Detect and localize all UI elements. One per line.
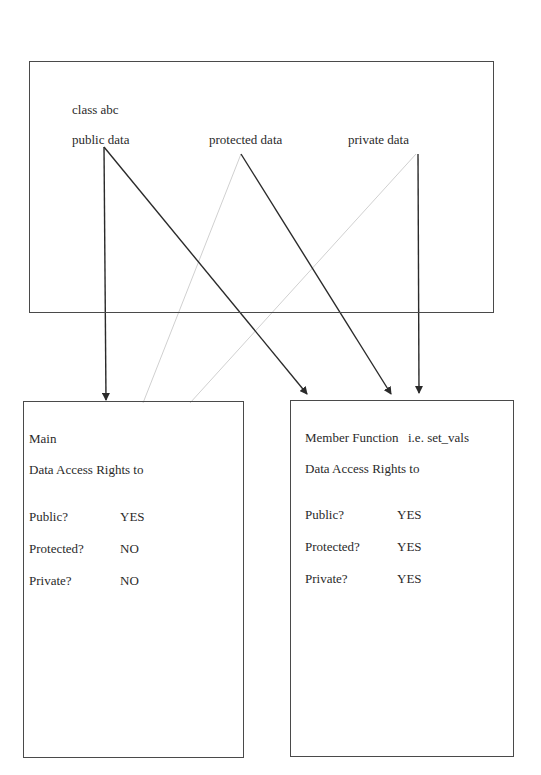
protected-data-label: protected data [209, 133, 282, 146]
private-data-label: private data [348, 133, 409, 146]
member-example: i.e. set_vals [408, 431, 469, 444]
main-row-private-value: NO [120, 574, 139, 587]
member-row-protected-label: Protected? [305, 540, 360, 553]
member-row-private-label: Private? [305, 572, 348, 585]
class-title: class abc [72, 103, 119, 116]
member-row-public-value: YES [397, 508, 422, 521]
main-row-protected-label: Protected? [29, 542, 84, 555]
main-row-public-label: Public? [29, 510, 68, 523]
main-row-private-label: Private? [29, 574, 72, 587]
public-data-label: public data [72, 133, 129, 146]
class-box [29, 61, 494, 313]
member-title: Member Function [305, 431, 399, 444]
main-title: Main [29, 432, 56, 445]
member-row-private-value: YES [397, 572, 422, 585]
member-row-public-label: Public? [305, 508, 344, 521]
main-subtitle: Data Access Rights to [29, 463, 143, 476]
member-row-protected-value: YES [397, 540, 422, 553]
member-subtitle: Data Access Rights to [305, 462, 419, 475]
main-row-protected-value: NO [120, 542, 139, 555]
main-row-public-value: YES [120, 510, 145, 523]
